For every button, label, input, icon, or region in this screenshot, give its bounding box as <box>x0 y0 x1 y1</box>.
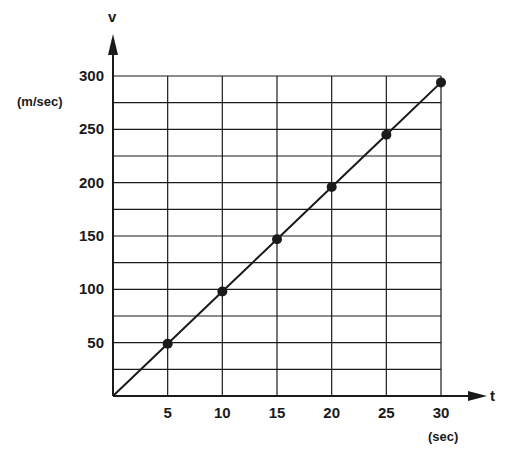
x-axis-arrow-icon <box>468 391 487 401</box>
y-tick-label: 50 <box>87 334 104 351</box>
y-axis-unit: (m/sec) <box>17 94 63 109</box>
data-point-marker <box>436 77 446 87</box>
x-tick-label: 10 <box>214 404 231 421</box>
data-series <box>113 77 446 396</box>
velocity-time-chart: 5010015020025030051015202530 v (m/sec) t… <box>0 0 515 466</box>
x-tick-label: 30 <box>433 404 450 421</box>
data-point-marker <box>381 130 391 140</box>
x-axis-label: t <box>490 387 495 404</box>
x-axis-unit: (sec) <box>428 429 458 444</box>
x-tick-label: 25 <box>378 404 395 421</box>
data-point-marker <box>163 339 173 349</box>
data-point-marker <box>217 286 227 296</box>
y-axis-label: v <box>108 8 117 25</box>
data-point-marker <box>272 234 282 244</box>
x-tick-label: 15 <box>269 404 286 421</box>
x-tick-label: 5 <box>163 404 171 421</box>
tick-labels: 5010015020025030051015202530 <box>79 67 449 421</box>
data-point-marker <box>327 182 337 192</box>
y-tick-label: 250 <box>79 120 104 137</box>
y-tick-label: 150 <box>79 227 104 244</box>
y-tick-label: 100 <box>79 280 104 297</box>
x-tick-label: 20 <box>323 404 340 421</box>
y-tick-label: 200 <box>79 174 104 191</box>
y-axis-arrow-icon <box>108 34 118 55</box>
y-tick-label: 300 <box>79 67 104 84</box>
